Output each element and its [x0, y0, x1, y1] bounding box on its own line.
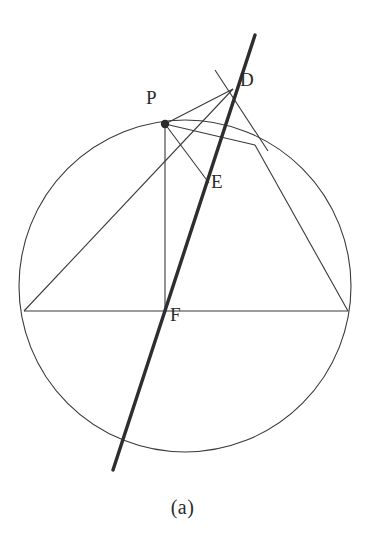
figure-caption: (a) — [0, 496, 365, 519]
geometry-canvas — [0, 0, 365, 547]
label-p: P — [146, 88, 157, 107]
secant-thick — [113, 35, 255, 470]
label-e: E — [211, 172, 223, 191]
chord-P-D — [165, 89, 233, 124]
geometry-figure: P D E F (a) — [0, 0, 365, 547]
chord-C-B — [255, 145, 348, 311]
point-p-marker — [161, 120, 169, 128]
main-circle — [19, 120, 351, 452]
label-d: D — [240, 70, 254, 89]
label-f: F — [170, 305, 181, 324]
